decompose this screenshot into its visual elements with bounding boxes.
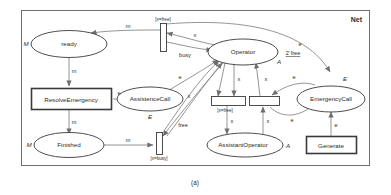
transition-xbusy-guard: [x=busy] <box>150 156 167 161</box>
place-finished-label: Finished <box>57 141 81 148</box>
arc-label-m-resolve-finished: m <box>72 119 77 125</box>
transition-resolveemergency-label: ResolveEmergency <box>44 96 99 103</box>
transition-xfree-top[interactable] <box>161 24 167 52</box>
arc-label-busy: busy <box>179 52 191 58</box>
place-assistantoperator-label: AssistantOperator <box>218 141 268 148</box>
arc-label-free: free <box>178 122 188 128</box>
place-ready-label: ready <box>61 40 77 47</box>
place-ready-type: M <box>23 40 29 47</box>
place-operator-type: A <box>276 58 281 65</box>
arc-label-x-mid-up: x <box>265 76 268 82</box>
place-operator-marking: 2`free <box>286 50 301 56</box>
place-operator-label: Operator <box>231 48 255 55</box>
transition-generate-label: Generate <box>318 142 344 149</box>
arc-label-e-resolve-assistence: e <box>117 90 120 96</box>
arc-label-e-right-dn: e <box>290 117 293 123</box>
arc-label-x-left-up: x <box>188 93 191 99</box>
arc-label-m-top: m <box>126 23 131 29</box>
arc-label-x-mid-down: x <box>231 118 234 124</box>
arc-label-e-generate: e <box>334 122 337 128</box>
place-assistencecall-label: AssistenceCall <box>130 95 171 102</box>
arc-label-x-top: x <box>194 32 197 38</box>
arc-label-m-finished-xbusy: m <box>126 137 131 143</box>
transition-xfree-top-guard: [x=free] <box>155 17 170 22</box>
transition-plain-mid[interactable] <box>250 97 280 106</box>
arc-label-e-assistence-up: e <box>178 74 181 80</box>
place-assistantoperator-type: A <box>285 142 290 149</box>
figure-caption: (a) <box>191 179 199 187</box>
arc-label-x-assistant-up: x <box>267 118 270 124</box>
place-finished-type: M <box>26 141 32 148</box>
net-label: Net <box>351 16 363 23</box>
transition-xbusy[interactable] <box>157 133 163 155</box>
place-emergencycall-label: EmergencyCall <box>310 95 352 102</box>
arc-label-e-outer-top: e <box>298 41 301 47</box>
petri-net-figure: ready M Finished M AssistenceCall E Oper… <box>0 0 391 195</box>
transition-xfree-mid[interactable] <box>212 97 246 106</box>
arc-label-e-right-up: e <box>292 74 295 80</box>
arc-label-m-ready-resolve: m <box>72 68 77 74</box>
arc-label-x-op-mid-r: x <box>238 76 241 82</box>
transition-xfree-mid-guard: [x=free] <box>217 108 232 113</box>
